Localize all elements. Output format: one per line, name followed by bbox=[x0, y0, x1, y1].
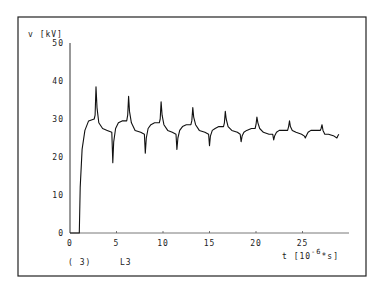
x-tick-label: 20 bbox=[250, 239, 262, 248]
x-tick-label: 15 bbox=[204, 239, 216, 248]
y-tick-label: 30 bbox=[52, 115, 64, 124]
chart-canvas: 010203040500510152025 v [kV] t [10-6*s] … bbox=[0, 0, 383, 295]
x-axis-label-suffix: *s] bbox=[322, 252, 339, 261]
x-axis-label: t [10-6*s] bbox=[282, 248, 339, 261]
annotation-line-label: L3 bbox=[120, 258, 132, 267]
y-tick-label: 40 bbox=[52, 77, 64, 86]
tick-labels: 010203040500510152025 bbox=[52, 39, 308, 248]
x-tick-label: 0 bbox=[67, 239, 73, 248]
y-tick-label: 0 bbox=[58, 229, 64, 238]
y-tick-label: 10 bbox=[52, 191, 64, 200]
annotation-case-number: ( 3) bbox=[68, 258, 91, 267]
voltage-waveform-line bbox=[70, 87, 339, 233]
y-tick-label: 50 bbox=[52, 39, 64, 48]
x-tick-label: 25 bbox=[297, 239, 309, 248]
x-axis-label-prefix: t [10 bbox=[282, 252, 311, 261]
y-tick-label: 20 bbox=[52, 153, 64, 162]
x-axis-label-exponent: -6 bbox=[311, 248, 321, 256]
x-tick-label: 10 bbox=[157, 239, 169, 248]
x-tick-label: 5 bbox=[114, 239, 120, 248]
y-axis-label: v [kV] bbox=[28, 30, 63, 39]
